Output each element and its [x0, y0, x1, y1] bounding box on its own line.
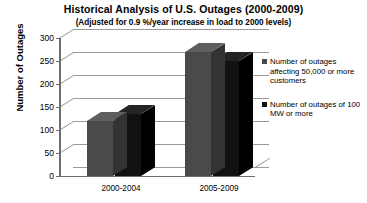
bar-side — [239, 52, 253, 176]
bar-side — [141, 105, 155, 176]
y-tick-mark — [56, 61, 60, 62]
y-tick-label: 200 — [40, 79, 54, 89]
chart-legend: Number of outages affecting 50,000 or mo… — [262, 57, 366, 133]
gridline-connector — [59, 121, 74, 131]
bar — [185, 52, 211, 176]
y-tick-mark — [56, 38, 60, 39]
bar — [87, 121, 113, 176]
gridline-connector — [59, 29, 74, 39]
legend-entry: Number of outages affecting 50,000 or mo… — [262, 57, 366, 86]
y-axis-title: Number of Outages — [14, 8, 25, 128]
bar-side — [211, 43, 225, 176]
legend-label: Number of outages of 100 MW or more — [270, 100, 366, 119]
y-tick-mark — [56, 107, 60, 108]
y-tick-mark — [56, 153, 60, 154]
y-tick-label: 250 — [40, 56, 54, 66]
legend-label: Number of outages affecting 50,000 or mo… — [270, 57, 366, 86]
x-axis-label: 2000-2004 — [101, 184, 140, 193]
bar-face — [87, 121, 113, 176]
y-tick-mark — [56, 130, 60, 131]
y-tick-label: 150 — [40, 102, 54, 112]
title-block: Historical Analysis of U.S. Outages (200… — [0, 3, 367, 29]
gridline-connector — [59, 98, 74, 108]
plot-area: 300250200150100500 — [59, 38, 255, 176]
x-axis-label: 2005-2009 — [199, 184, 238, 193]
legend-swatch-icon — [262, 102, 267, 107]
gridline-connector — [59, 75, 74, 85]
y-tick-mark — [56, 176, 60, 177]
chart-title: Historical Analysis of U.S. Outages (200… — [0, 3, 367, 16]
chart-subtitle: (Adjusted for 0.9 %/year increase in loa… — [0, 17, 367, 29]
gridline — [73, 29, 269, 30]
gridline-connector — [59, 144, 74, 154]
y-tick-label: 0 — [49, 171, 54, 181]
y-tick-label: 50 — [45, 148, 54, 158]
bar-side — [113, 112, 127, 176]
y-tick-label: 100 — [40, 125, 54, 135]
outages-bar-chart: Historical Analysis of U.S. Outages (200… — [0, 0, 367, 203]
gridline-connector — [59, 52, 74, 62]
y-tick-mark — [56, 84, 60, 85]
bar-face — [185, 52, 211, 176]
y-tick-label: 300 — [40, 33, 54, 43]
x-axis-line — [59, 176, 255, 177]
legend-entry: Number of outages of 100 MW or more — [262, 100, 366, 119]
legend-swatch-icon — [262, 59, 267, 64]
